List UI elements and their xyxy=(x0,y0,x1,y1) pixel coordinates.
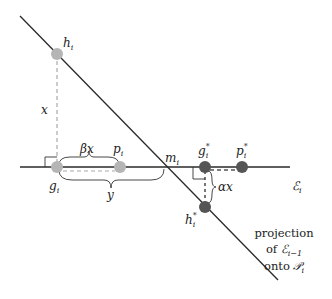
projection-diagram: hi x βx pi mi gi y g*i p*i αx h*i ℰi pro… xyxy=(0,0,332,299)
label-h-i: hi xyxy=(63,36,74,52)
label-y: y xyxy=(106,188,114,202)
point-g-star xyxy=(199,161,211,173)
label-g-star: g*i xyxy=(198,142,210,160)
point-p-star xyxy=(236,161,248,173)
label-E-i: ℰi xyxy=(292,179,302,195)
label-h-star: h*i xyxy=(185,211,197,229)
caption-line-3: onto 𝒫i xyxy=(264,259,306,275)
point-g-i xyxy=(51,161,63,173)
point-h-star xyxy=(199,201,211,213)
label-beta-x: βx xyxy=(79,142,94,156)
label-m-i: mi xyxy=(165,151,179,167)
label-alpha-x: αx xyxy=(218,180,233,194)
caption-line-1: projection xyxy=(254,226,314,240)
caption-line-2: of ℰi−1 xyxy=(266,242,302,258)
label-g-i: gi xyxy=(49,179,60,195)
label-p-star: p*i xyxy=(236,142,248,160)
label-p-i: pi xyxy=(113,142,124,158)
point-p-i xyxy=(114,161,126,173)
point-h-i xyxy=(51,48,63,60)
brace-y xyxy=(59,169,164,188)
brace-alpha-x xyxy=(208,171,216,203)
label-x: x xyxy=(41,103,48,117)
